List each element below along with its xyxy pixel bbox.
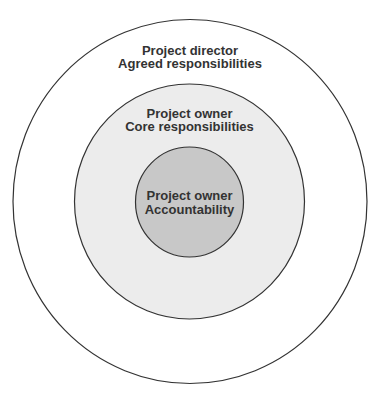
outer-label-scope: Agreed responsibilities: [118, 56, 262, 71]
inner-label-scope: Accountability: [145, 202, 235, 217]
concentric-responsibility-diagram: Project director Agreed responsibilities…: [0, 0, 378, 401]
inner-label-role: Project owner: [147, 188, 233, 203]
middle-label-scope: Core responsibilities: [125, 119, 254, 134]
